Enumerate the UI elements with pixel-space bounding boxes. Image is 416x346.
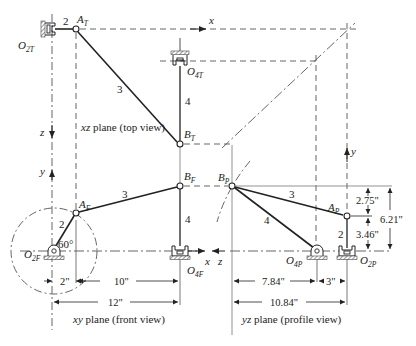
dim-10-84in: 10.84" (270, 297, 298, 308)
label-BF: BF (184, 170, 196, 185)
profile-link-2-number: 2 (338, 228, 344, 240)
label-AT: AT (76, 13, 89, 28)
mitre-line (222, 23, 355, 148)
ground-supports (41, 21, 357, 260)
joint-AP (344, 213, 350, 219)
o4f-support (170, 246, 190, 260)
o2t-support (41, 21, 55, 37)
dim-3in: 3" (326, 276, 336, 287)
crank-angle-label: 60° (58, 238, 73, 250)
three-view-linkage-diagram: x z y x z y (0, 0, 416, 346)
front-y-label: y (39, 165, 45, 177)
dim-6-21in: 6.21" (380, 214, 403, 225)
top-link-4-number: 4 (185, 95, 191, 107)
caption-top-view: xz plane (top view) (80, 121, 165, 134)
top-z-label: z (39, 126, 45, 138)
caption-front-view: xy plane (front view) (72, 313, 165, 326)
profile-z-label: z (217, 255, 223, 267)
view-captions: xz plane (top view) xy plane (front view… (72, 121, 342, 326)
o4t-support (171, 51, 189, 65)
joint-BF (177, 183, 183, 189)
label-O4P: O4P (286, 254, 303, 269)
o2p-support (337, 246, 357, 260)
dim-3-46in: 3.46" (356, 229, 379, 240)
top-link-2-number: 2 (63, 15, 69, 27)
label-BT: BT (184, 128, 196, 143)
joint-AT (73, 26, 79, 32)
front-x-label: x (204, 255, 210, 267)
profile-link-3-number: 3 (289, 188, 295, 200)
front-link-2-number: 2 (59, 218, 65, 230)
profile-y-label: y (350, 145, 356, 157)
joint-BP (229, 183, 235, 189)
joint-BT (177, 141, 183, 147)
caption-profile-view: yz plane (profile view) (241, 313, 342, 326)
front-link-3-number: 3 (122, 188, 128, 200)
label-O4F: O4F (187, 264, 204, 279)
label-AP: AP (327, 201, 340, 216)
label-O2P: O2P (360, 254, 377, 269)
dimensions (44, 188, 390, 302)
joint-AF (73, 210, 79, 216)
profile-link-4-number: 4 (264, 214, 270, 226)
top-x-label: x (208, 14, 214, 26)
front-link-3 (79, 187, 177, 212)
dim-10in: 10" (114, 276, 129, 287)
axes (52, 29, 347, 251)
label-O2F: O2F (24, 248, 41, 263)
links (54, 29, 347, 249)
label-O2T: O2T (18, 39, 35, 54)
dim-2-75in: 2.75" (356, 195, 379, 206)
front-link-4-number: 4 (185, 213, 191, 225)
top-link-3-number: 3 (117, 83, 123, 95)
dim-2in: 2" (60, 276, 70, 287)
o4p-support (307, 245, 327, 260)
dim-7-84in: 7.84" (262, 276, 285, 287)
label-O4T: O4T (187, 65, 204, 80)
label-BP: BP (218, 171, 230, 186)
axis-labels: x z y x z y (39, 14, 356, 267)
dim-12in: 12" (108, 297, 123, 308)
